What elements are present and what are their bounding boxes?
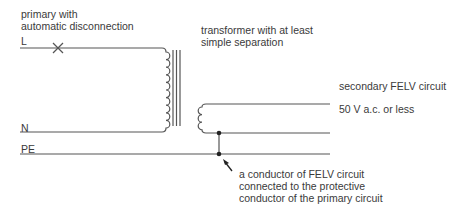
circuit-diagram — [0, 0, 461, 215]
transformer-core — [173, 50, 180, 126]
secondary-coil — [198, 104, 206, 133]
primary-coil — [162, 48, 170, 132]
junction-dot-pe — [217, 152, 222, 157]
annotation-arrow-icon — [223, 159, 232, 171]
junction-dot-secondary — [217, 131, 222, 136]
